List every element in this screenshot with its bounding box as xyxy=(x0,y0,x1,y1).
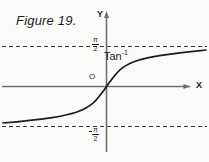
tick-numerator: π xyxy=(92,36,99,43)
curve-annotation-label: Tan-1 xyxy=(104,50,128,62)
y-axis-arrowhead-icon xyxy=(104,11,109,18)
tick-numerator: π xyxy=(92,126,99,133)
tick-label-positive-pi-over-2: π 2 xyxy=(92,36,99,52)
figure-19-arctangent-plot: Figure 19. Y X O Tan-1 π 2 π 2 xyxy=(0,0,209,162)
x-axis-arrowhead-icon xyxy=(184,84,191,89)
curve-annotation-exponent: -1 xyxy=(122,49,128,56)
origin-label: O xyxy=(89,72,95,81)
tick-label-negative-pi-over-2: π 2 xyxy=(92,126,99,142)
tick-denominator: 2 xyxy=(92,45,99,52)
tick-denominator: 2 xyxy=(92,135,99,142)
curve-annotation-base: Tan xyxy=(104,50,122,62)
y-axis-label: Y xyxy=(97,9,103,19)
minus-sign-icon xyxy=(89,131,92,132)
x-axis-label: X xyxy=(196,80,202,90)
figure-caption: Figure 19. xyxy=(16,13,77,28)
